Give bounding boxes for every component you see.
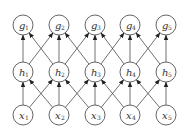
- node-subscript: 4: [132, 24, 136, 31]
- node-g2: g2: [49, 15, 69, 35]
- node-g3: g3: [85, 15, 105, 35]
- node-subscript: 5: [168, 114, 172, 121]
- network-diagram: x1x2x3x4x5h1h2h3h4h5g1g2g3g4g5: [0, 0, 188, 134]
- node-subscript: 5: [168, 24, 172, 31]
- node-g1: g1: [13, 15, 33, 35]
- node-h2: h2: [49, 62, 69, 82]
- node-subscript: 4: [132, 114, 136, 121]
- nodes-group: x1x2x3x4x5h1h2h3h4h5g1g2g3g4g5: [13, 15, 176, 125]
- node-subscript: 1: [25, 24, 29, 31]
- node-subscript: 1: [25, 71, 29, 78]
- node-subscript: 2: [61, 24, 65, 31]
- node-subscript: 3: [97, 71, 101, 78]
- node-h5: h5: [156, 62, 176, 82]
- node-subscript: 2: [61, 114, 65, 121]
- node-h1: h1: [13, 62, 33, 82]
- node-subscript: 2: [61, 71, 65, 78]
- node-g4: g4: [120, 15, 140, 35]
- node-h3: h3: [85, 62, 105, 82]
- node-x1: x1: [13, 105, 33, 125]
- node-subscript: 3: [97, 114, 101, 121]
- node-subscript: 1: [25, 114, 29, 121]
- node-subscript: 4: [132, 71, 136, 78]
- node-subscript: 3: [97, 24, 101, 31]
- node-subscript: 5: [168, 71, 172, 78]
- node-h4: h4: [120, 62, 140, 82]
- node-x5: x5: [156, 105, 176, 125]
- node-g5: g5: [156, 15, 176, 35]
- node-x3: x3: [85, 105, 105, 125]
- node-x2: x2: [49, 105, 69, 125]
- node-x4: x4: [120, 105, 140, 125]
